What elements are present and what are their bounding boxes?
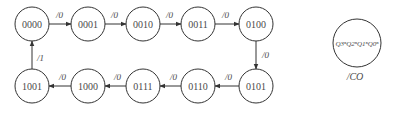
state-1000: 1000 xyxy=(71,69,105,103)
state-0011: 0011 xyxy=(181,7,215,41)
transition-0001-0010: /0 xyxy=(105,10,126,24)
transition-label: /0 xyxy=(224,72,233,82)
state-label: 0011 xyxy=(188,19,208,30)
state-0001: 0001 xyxy=(71,7,105,41)
state-0101: 0101 xyxy=(239,69,273,103)
transition-label: /0 xyxy=(55,10,64,20)
legend: Q3ⁿQ2ⁿQ1ⁿQ0ⁿ /CO xyxy=(333,19,381,82)
transition-0110-0111: /0 xyxy=(160,72,181,86)
transition-label: /0 xyxy=(165,10,174,20)
transition-label: /0 xyxy=(58,72,67,82)
state-label: 0000 xyxy=(22,19,42,30)
state-0010: 0010 xyxy=(126,7,160,41)
transition-label: /0 xyxy=(261,50,270,60)
state-0000: 0000 xyxy=(15,7,49,41)
state-label: 0010 xyxy=(133,19,153,30)
state-label: 1000 xyxy=(78,81,98,92)
state-label: 0001 xyxy=(78,19,98,30)
transition-0000-0001: /0 xyxy=(49,10,71,24)
state-0100: 0100 xyxy=(239,7,273,41)
transition-0010-0011: /0 xyxy=(160,10,181,24)
state-label: 0110 xyxy=(188,81,208,92)
state-diagram-canvas: 0000 0001 0010 0011 0100 0101 0110 xyxy=(0,0,397,113)
state-label: 0100 xyxy=(246,19,266,30)
transition-0011-0100: /0 xyxy=(215,10,239,24)
transition-label: /0 xyxy=(221,10,230,20)
state-0110: 0110 xyxy=(181,69,215,103)
transition-1001-0000: /1 xyxy=(32,41,44,69)
state-label: 1001 xyxy=(22,81,42,92)
transition-1000-1001: /0 xyxy=(49,72,71,86)
transition-label: /0 xyxy=(110,10,119,20)
transition-0101-0110: /0 xyxy=(215,72,239,86)
transition-label: /0 xyxy=(169,72,178,82)
transition-label: /1 xyxy=(36,53,44,63)
state-1001: 1001 xyxy=(15,69,49,103)
state-diagram: 0000 0001 0010 0011 0100 0101 0110 xyxy=(0,0,397,113)
state-label: 0111 xyxy=(133,81,152,92)
transition-0100-0101: /0 xyxy=(256,41,270,69)
state-label: 0101 xyxy=(246,81,266,92)
legend-output-label: /CO xyxy=(346,71,364,82)
legend-state-format: Q3ⁿQ2ⁿQ1ⁿQ0ⁿ xyxy=(335,40,379,48)
state-0111: 0111 xyxy=(126,69,160,103)
transition-label: /0 xyxy=(113,72,122,82)
transition-0111-1000: /0 xyxy=(105,72,126,86)
